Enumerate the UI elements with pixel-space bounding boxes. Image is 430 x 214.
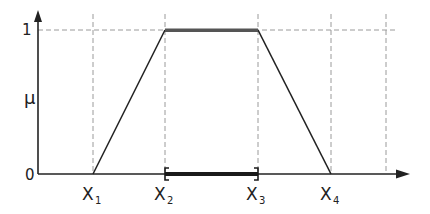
x-label-3: X 3 [246, 184, 265, 206]
x-axis-arrow-icon [396, 170, 410, 179]
y-axis-label-mu: μ [24, 87, 36, 108]
x-label-4: X 4 [320, 184, 339, 206]
y-axis-arrow-icon [34, 10, 42, 22]
vertical-guides [93, 14, 386, 174]
svg-text:1: 1 [95, 195, 101, 206]
rising-edge [93, 30, 165, 174]
svg-text:X: X [82, 184, 94, 204]
svg-text:4: 4 [333, 195, 339, 206]
tick-label-1: 1 [22, 21, 32, 39]
svg-text:X: X [154, 184, 166, 204]
membership-function-diagram: 1 μ 0 X 1 X 2 X 3 X 4 [0, 0, 430, 214]
falling-edge [258, 30, 331, 174]
svg-text:3: 3 [259, 195, 265, 206]
x-label-2: X 2 [154, 184, 173, 206]
plateau [165, 29, 258, 33]
x-label-1: X 1 [82, 184, 101, 206]
core-interval [165, 172, 258, 176]
svg-text:2: 2 [167, 195, 173, 206]
svg-text:X: X [320, 184, 332, 204]
tick-label-0: 0 [25, 166, 35, 184]
svg-text:X: X [246, 184, 258, 204]
